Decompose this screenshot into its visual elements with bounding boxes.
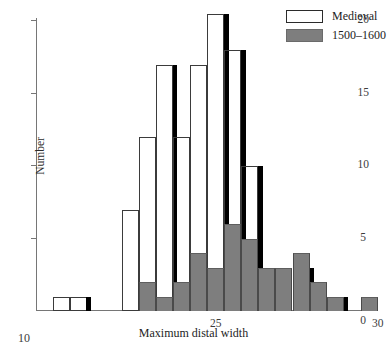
bar-shadow-gray-12	[86, 297, 91, 312]
histogram-figure: 20 15 10 5 0 25 30 Number	[0, 0, 387, 349]
bar-1500-24	[275, 268, 292, 312]
bar-1500-23	[258, 268, 275, 312]
y-tick-label-0: 0	[360, 315, 366, 327]
legend-label-1500-1600: 1500–1600	[332, 28, 386, 43]
bar-1500-18	[173, 282, 190, 311]
bar-1500-20	[207, 268, 224, 312]
legend-swatch-medieval-icon	[286, 10, 323, 23]
bar-medieval-11	[53, 297, 70, 312]
bar-1500-17	[156, 297, 173, 312]
plot-area: 20 15 10 5 0 25 30 Number	[36, 18, 378, 311]
bar-1500-26	[310, 282, 327, 311]
legend-row-medieval: Medieval	[286, 8, 386, 27]
bar-1500-25	[293, 253, 310, 311]
x-axis-label: Maximum distal width	[0, 326, 387, 341]
bar-medieval-20	[207, 14, 224, 311]
legend-label-medieval: Medieval	[332, 9, 377, 24]
legend-row-1500-1600: 1500–1600	[286, 27, 386, 46]
bar-1500-27	[327, 297, 344, 312]
bar-1500-16	[139, 282, 156, 311]
bar-1500-21	[224, 224, 241, 311]
bar-1500-19	[190, 253, 207, 311]
bar-medieval-17	[156, 65, 173, 312]
legend: Medieval 1500–1600	[286, 8, 386, 46]
bar-1500-22	[241, 239, 258, 312]
bar-medieval-12	[70, 297, 87, 312]
bar-1500-29	[361, 297, 378, 312]
bar-medieval-15	[122, 210, 139, 312]
bars-layer	[36, 18, 378, 311]
legend-swatch-1500-1600-icon	[286, 29, 323, 42]
x-tick-label-10: 10	[18, 331, 30, 346]
